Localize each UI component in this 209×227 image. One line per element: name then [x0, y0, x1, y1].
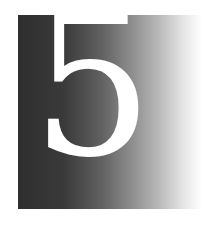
chapter-number-block: 5	[18, 15, 202, 209]
chapter-number: 5	[32, 15, 153, 185]
